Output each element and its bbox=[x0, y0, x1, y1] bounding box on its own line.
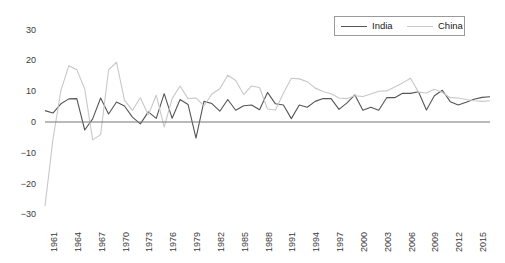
legend-label-china: China bbox=[438, 21, 463, 31]
y-tick-20: 20 bbox=[8, 55, 36, 65]
x-tick-1973: 1973 bbox=[144, 232, 154, 252]
x-tick-1967: 1967 bbox=[97, 232, 107, 252]
legend-swatch-china bbox=[407, 26, 433, 27]
y-tick-30: 30 bbox=[8, 25, 36, 35]
y-tick-10: 10 bbox=[8, 86, 36, 96]
x-tick-2006: 2006 bbox=[407, 232, 417, 252]
x-tick-1976: 1976 bbox=[168, 232, 178, 252]
y-tick-neg10: −10 bbox=[8, 148, 36, 158]
legend-item-india: India bbox=[341, 17, 393, 35]
legend-label-india: India bbox=[372, 21, 393, 31]
x-tick-2012: 2012 bbox=[454, 232, 464, 252]
x-tick-1991: 1991 bbox=[287, 232, 297, 252]
x-tick-2015: 2015 bbox=[478, 232, 488, 252]
series-line-china bbox=[45, 62, 490, 206]
x-tick-2000: 2000 bbox=[359, 232, 369, 252]
y-tick-neg30: −30 bbox=[8, 209, 36, 219]
line-chart-plot bbox=[0, 0, 505, 263]
x-tick-1964: 1964 bbox=[73, 232, 83, 252]
x-tick-1979: 1979 bbox=[192, 232, 202, 252]
series-line-india bbox=[45, 90, 490, 138]
x-tick-1970: 1970 bbox=[121, 232, 131, 252]
x-tick-1961: 1961 bbox=[49, 232, 59, 252]
x-tick-1985: 1985 bbox=[240, 232, 250, 252]
legend-item-china: China bbox=[407, 17, 463, 35]
chart-container: 3020100−10−20−30 19611964196719701973197… bbox=[0, 0, 505, 263]
x-tick-2003: 2003 bbox=[383, 232, 393, 252]
x-tick-1988: 1988 bbox=[264, 232, 274, 252]
x-tick-1997: 1997 bbox=[335, 232, 345, 252]
y-tick-neg20: −20 bbox=[8, 179, 36, 189]
x-tick-1994: 1994 bbox=[311, 232, 321, 252]
x-tick-2009: 2009 bbox=[430, 232, 440, 252]
legend-swatch-india bbox=[341, 26, 367, 27]
x-tick-1982: 1982 bbox=[216, 232, 226, 252]
y-tick-0: 0 bbox=[8, 117, 36, 127]
chart-legend: India China bbox=[334, 16, 465, 36]
